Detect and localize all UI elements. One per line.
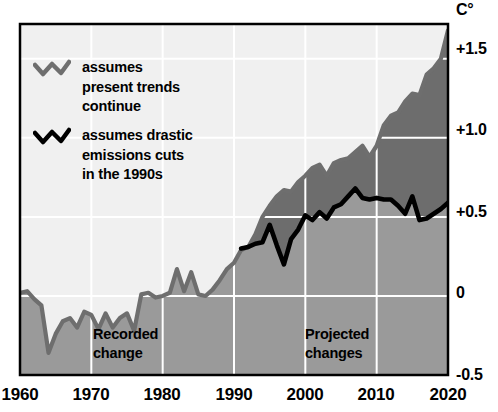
y-tick-label-minus-0-5: -0.5 [456, 366, 483, 384]
x-tick-label-2000: 2000 [277, 385, 333, 405]
legend-label-present-trends: assumes present trends continue [82, 58, 180, 117]
x-tick-label-2020: 2020 [420, 385, 476, 405]
y-axis-unit-label: C° [456, 1, 474, 19]
x-tick-label-1980: 1980 [134, 385, 190, 405]
annotation-recorded-change: Recorded change [93, 325, 158, 363]
x-tick-label-2010: 2010 [348, 385, 404, 405]
legend-label-drastic-cuts: assumes drastic emissions cuts in the 19… [82, 126, 193, 185]
y-tick-label-1-5: +1.5 [456, 40, 487, 58]
x-tick-label-1960: 1960 [0, 385, 48, 405]
y-tick-label-0-5: +0.5 [456, 203, 487, 221]
zigzag-line-icon-gray [33, 59, 71, 77]
annotation-projected-changes: Projected changes [305, 325, 369, 363]
legend-item-drastic-cuts: assumes drastic emissions cuts in the 19… [33, 126, 193, 185]
legend-item-present-trends: assumes present trends continue [33, 58, 180, 117]
y-tick-label-1-0: +1.0 [456, 121, 487, 139]
x-tick-label-1970: 1970 [63, 385, 119, 405]
zigzag-line-icon-black [33, 127, 71, 145]
y-tick-label-0: 0 [456, 284, 465, 302]
climate-projection-chart: C° +1.5 +1.0 +0.5 0 -0.5 1960 1970 1980 … [0, 0, 498, 412]
x-tick-label-1990: 1990 [206, 385, 262, 405]
